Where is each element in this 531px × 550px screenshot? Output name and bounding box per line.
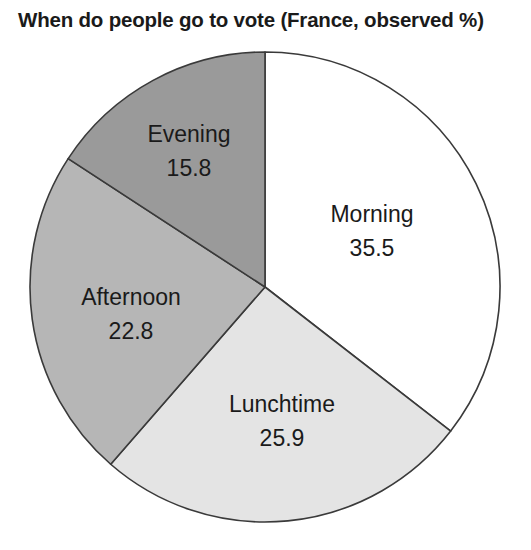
slice-label-name: Morning: [330, 201, 413, 227]
pie-chart-canvas: Morning35.5Lunchtime25.9Afternoon22.8Eve…: [0, 0, 531, 550]
slice-label-value: 22.8: [109, 318, 154, 344]
slice-label-name: Lunchtime: [229, 391, 335, 417]
slice-label-value: 25.9: [260, 425, 305, 451]
pie-chart-figure: When do people go to vote (France, obser…: [0, 0, 531, 550]
slice-label-value: 35.5: [350, 235, 395, 261]
slice-label-name: Evening: [147, 121, 230, 147]
slice-label-name: Afternoon: [81, 284, 181, 310]
slice-label-value: 15.8: [167, 155, 212, 181]
